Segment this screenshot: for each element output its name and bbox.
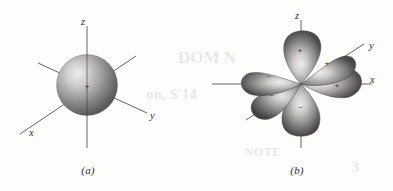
- panel-d-orbital: + − − − + + z y x: [196, 0, 393, 191]
- caption-b: (b): [277, 164, 317, 176]
- panel-s-orbital: + z y x: [0, 0, 196, 191]
- s-orbital-z-axis-label: z: [81, 16, 85, 27]
- d-orbital-z-axis-label: z: [295, 10, 299, 21]
- d-sign-top: +: [298, 45, 303, 55]
- orbital-figure: DOM N on, S'14 NOTE 3: [0, 0, 393, 191]
- d-sign-upper-right: +: [325, 58, 330, 68]
- s-orbital-x-axis-label: x: [29, 127, 34, 138]
- d-orbital-x-axis-label: x: [370, 74, 375, 85]
- d-sign-lower-left: −: [270, 90, 275, 100]
- d-sign-bottom: −: [299, 102, 304, 112]
- s-orbital-plus-sign: +: [84, 81, 89, 91]
- d-sign-upper-left: −: [267, 71, 272, 81]
- d-orbital-y-axis-label: y: [369, 40, 374, 51]
- s-orbital-y-axis-label: y: [150, 110, 155, 121]
- d-sign-lower-right: +: [335, 80, 340, 90]
- d-orbital-drawing: + − − − + +: [196, 0, 393, 160]
- caption-a: (a): [68, 164, 108, 176]
